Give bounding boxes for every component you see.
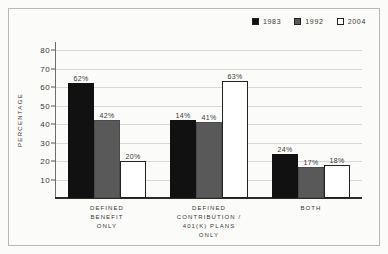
bar-value-label: 41%: [201, 114, 216, 121]
bar-slot: 42%: [94, 50, 120, 198]
bar-groups: 62%42%20%14%41%63%24%17%18%: [56, 50, 362, 198]
bar[interactable]: 41%: [196, 122, 222, 198]
bar-value-label: 20%: [125, 153, 140, 160]
category-label-line: BENEFIT: [56, 213, 158, 222]
bar-value-label: 42%: [99, 112, 114, 119]
bar-value-label: 62%: [73, 75, 88, 82]
legend-label: 2004: [348, 18, 366, 25]
legend-swatch-icon: [294, 18, 301, 25]
bar-group: 62%42%20%: [56, 50, 158, 198]
category-label-line: CONTRIBUTION /: [158, 213, 260, 222]
bar-slot: 41%: [196, 50, 222, 198]
legend-label: 1992: [305, 18, 323, 25]
bar-value-label: 14%: [175, 112, 190, 119]
category-label-line: ONLY: [56, 222, 158, 231]
category-label: BOTH: [260, 204, 362, 240]
legend-item[interactable]: 1992: [294, 18, 323, 25]
y-axis-tick-label: 30: [40, 138, 50, 147]
bar[interactable]: 20%: [120, 161, 146, 198]
bar[interactable]: 42%: [94, 120, 120, 198]
bar-slot: 62%: [68, 50, 94, 198]
bar-value-label: 17%: [303, 159, 318, 166]
y-axis-tick-label: 50: [40, 101, 50, 110]
bar-group: 14%41%63%: [158, 50, 260, 198]
y-axis-tick-label: 40: [40, 120, 50, 129]
bar-value-label: 18%: [329, 157, 344, 164]
bar-slot: 14%: [170, 50, 196, 198]
bar-value-label: 24%: [277, 146, 292, 153]
bar-slot: 24%: [272, 50, 298, 198]
category-label-line: DEFINED: [158, 204, 260, 213]
bar[interactable]: 63%: [222, 81, 248, 198]
x-axis-category-labels: DEFINEDBENEFITONLYDEFINEDCONTRIBUTION /4…: [56, 204, 362, 240]
y-axis-tick-label: 20: [40, 157, 50, 166]
category-label: DEFINEDBENEFITONLY: [56, 204, 158, 240]
bar[interactable]: 17%: [298, 167, 324, 198]
legend-swatch-icon: [337, 18, 344, 25]
y-axis-tick-label: 60: [40, 83, 50, 92]
bar-chart-figure: 198319922004 PERCENTAGE 8070605040302010…: [0, 0, 388, 254]
legend-label: 1983: [263, 18, 281, 25]
y-axis-tick-label: 10: [40, 175, 50, 184]
bar-slot: 17%: [298, 50, 324, 198]
bar-group: 24%17%18%: [260, 50, 362, 198]
category-label-line: 401(K) PLANS: [158, 222, 260, 231]
chart-legend: 198319922004: [252, 18, 366, 25]
legend-item[interactable]: 2004: [337, 18, 366, 25]
bar[interactable]: 14%: [170, 120, 196, 198]
bar[interactable]: 18%: [324, 165, 350, 198]
category-label: DEFINEDCONTRIBUTION /401(K) PLANSONLY: [158, 204, 260, 240]
plot-area: 8070605040302010 62%42%20%14%41%63%24%17…: [56, 50, 362, 198]
y-axis-title: PERCENTAGE: [14, 55, 26, 185]
bar-slot: 20%: [120, 50, 146, 198]
category-label-line: DEFINED: [56, 204, 158, 213]
bar[interactable]: 62%: [68, 83, 94, 198]
category-label-line: ONLY: [158, 231, 260, 240]
bar-slot: 18%: [324, 50, 350, 198]
legend-swatch-icon: [252, 18, 259, 25]
bar-slot: 63%: [222, 50, 248, 198]
bar-value-label: 63%: [227, 73, 242, 80]
bar[interactable]: 24%: [272, 154, 298, 198]
y-axis-tick-label: 80: [40, 46, 50, 55]
y-axis-tick-label: 70: [40, 64, 50, 73]
category-label-line: BOTH: [260, 204, 362, 213]
legend-item[interactable]: 1983: [252, 18, 281, 25]
